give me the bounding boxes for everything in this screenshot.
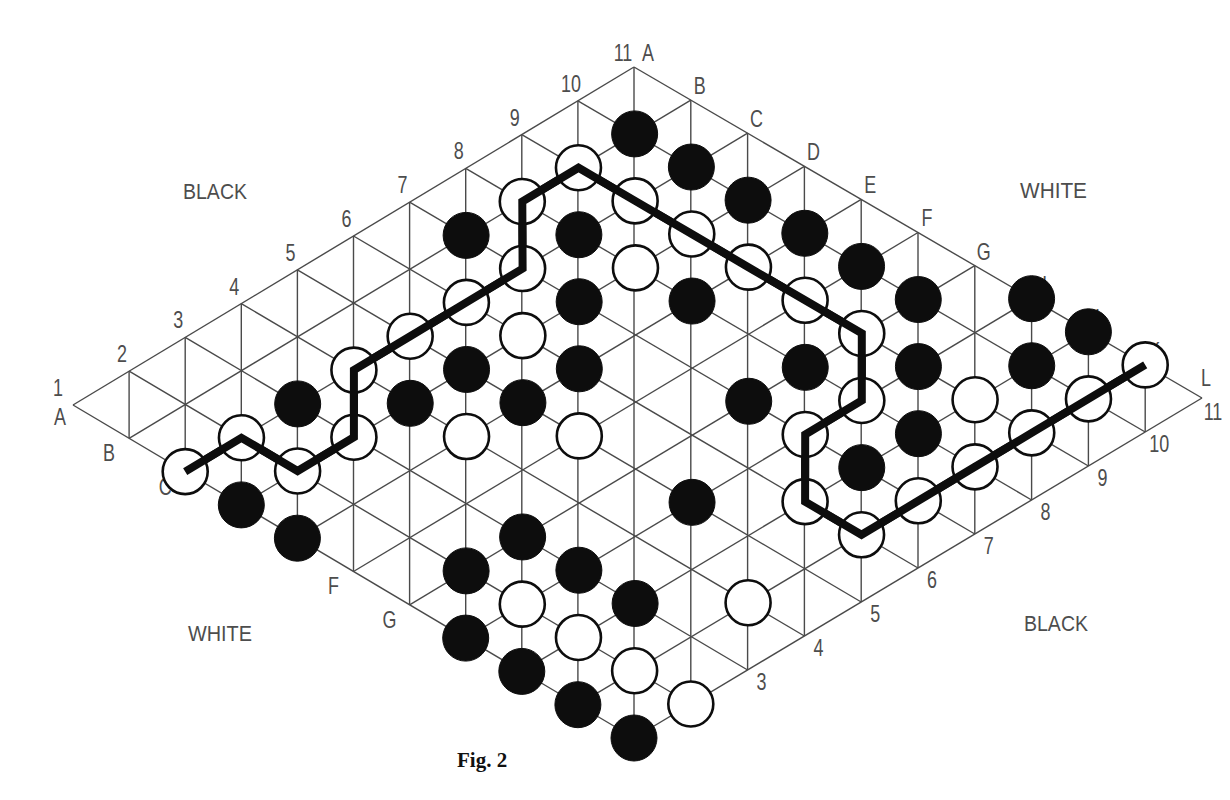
edge-label-number: 7 — [398, 172, 408, 198]
edge-label-letter: F — [328, 573, 339, 599]
white-winning-chain-line — [185, 168, 1145, 535]
edge-label-letter: E — [864, 172, 876, 198]
edge-label-letter: A — [54, 404, 66, 430]
black-stone — [443, 615, 489, 661]
edge-label-letter: D — [807, 139, 820, 165]
black-stone — [611, 715, 657, 761]
edge-label-letter: B — [694, 73, 706, 99]
edge-label-number: 11 — [1204, 399, 1223, 425]
white-stone — [500, 582, 545, 627]
black-stone — [499, 648, 545, 694]
black-stone — [555, 682, 601, 728]
edge-label-number: 7 — [984, 533, 994, 559]
edge-label-number: 3 — [173, 307, 183, 333]
black-stone — [1009, 276, 1055, 322]
white-stone — [613, 245, 658, 290]
edge-label-number: 2 — [117, 341, 127, 367]
black-stone — [782, 344, 828, 390]
black-stone — [895, 344, 941, 390]
edge-label-letter: G — [383, 607, 397, 633]
black-stone — [839, 243, 885, 289]
black-stone — [612, 111, 658, 157]
black-stone — [782, 210, 828, 256]
black-stone — [612, 580, 658, 626]
black-stone — [387, 380, 433, 426]
winning-path-overlay — [185, 168, 1145, 535]
black-stone — [895, 411, 941, 457]
hex-board: 1234567891011ABCDEFGHIKLABCFG34567891011… — [0, 0, 1230, 800]
black-stone — [1009, 343, 1055, 389]
edge-label-letter: L — [1201, 365, 1211, 391]
black-stone — [218, 482, 264, 528]
black-stone — [274, 515, 320, 561]
edge-label-number: 6 — [342, 206, 352, 232]
black-stone — [275, 381, 321, 427]
edge-label-letter: B — [103, 440, 115, 466]
edge-label-letter: A — [642, 40, 654, 66]
edge-label-number: 8 — [1041, 499, 1051, 525]
edge-label-letter: G — [977, 238, 991, 264]
white-stone — [557, 413, 602, 458]
side-label-bottom-left: WHITE — [188, 621, 252, 646]
white-stone — [500, 313, 545, 358]
black-stone — [443, 548, 489, 594]
black-stone — [726, 378, 772, 424]
edge-label-number: 1 — [53, 375, 63, 401]
edge-label-number: 4 — [229, 273, 239, 299]
edge-label-letter: C — [750, 106, 763, 132]
black-stone — [669, 479, 715, 525]
black-stone — [500, 514, 546, 560]
edge-label-number: 11 — [614, 40, 633, 66]
white-stone — [556, 615, 601, 660]
edge-label-number: 5 — [285, 240, 295, 266]
black-stone — [556, 346, 602, 392]
edge-label-number: 9 — [1097, 465, 1107, 491]
black-stone — [556, 212, 602, 258]
white-stone — [612, 648, 657, 693]
white-stone — [444, 414, 489, 459]
edge-label-number: 10 — [561, 71, 581, 97]
black-stone — [443, 212, 489, 258]
edge-label-number: 9 — [510, 104, 520, 130]
black-stone — [500, 380, 546, 426]
edge-label-letter: F — [922, 205, 933, 231]
side-label-top-right: WHITE — [1020, 178, 1087, 203]
edge-label-number: 6 — [927, 567, 937, 593]
white-stone — [668, 682, 713, 727]
black-stone — [725, 177, 771, 223]
black-stone — [669, 278, 715, 324]
black-stone — [839, 445, 885, 491]
white-stone — [953, 377, 998, 422]
black-stone — [895, 277, 941, 323]
side-label-bottom-right: BLACK — [1024, 611, 1088, 636]
black-stone — [1065, 309, 1111, 355]
black-stone — [444, 346, 490, 392]
edge-label-number: 8 — [454, 138, 464, 164]
black-stone — [556, 279, 602, 325]
edge-label-number: 5 — [870, 601, 880, 627]
edge-label-number: 10 — [1149, 431, 1169, 457]
stones — [163, 111, 1168, 761]
edge-label-number: 4 — [813, 635, 823, 661]
figure-caption: Fig. 2 — [457, 748, 507, 773]
side-label-top-left: BLACK — [183, 179, 247, 204]
white-stone — [726, 580, 771, 625]
black-stone — [556, 547, 602, 593]
black-stone — [668, 144, 714, 190]
edge-label-number: 3 — [757, 669, 767, 695]
